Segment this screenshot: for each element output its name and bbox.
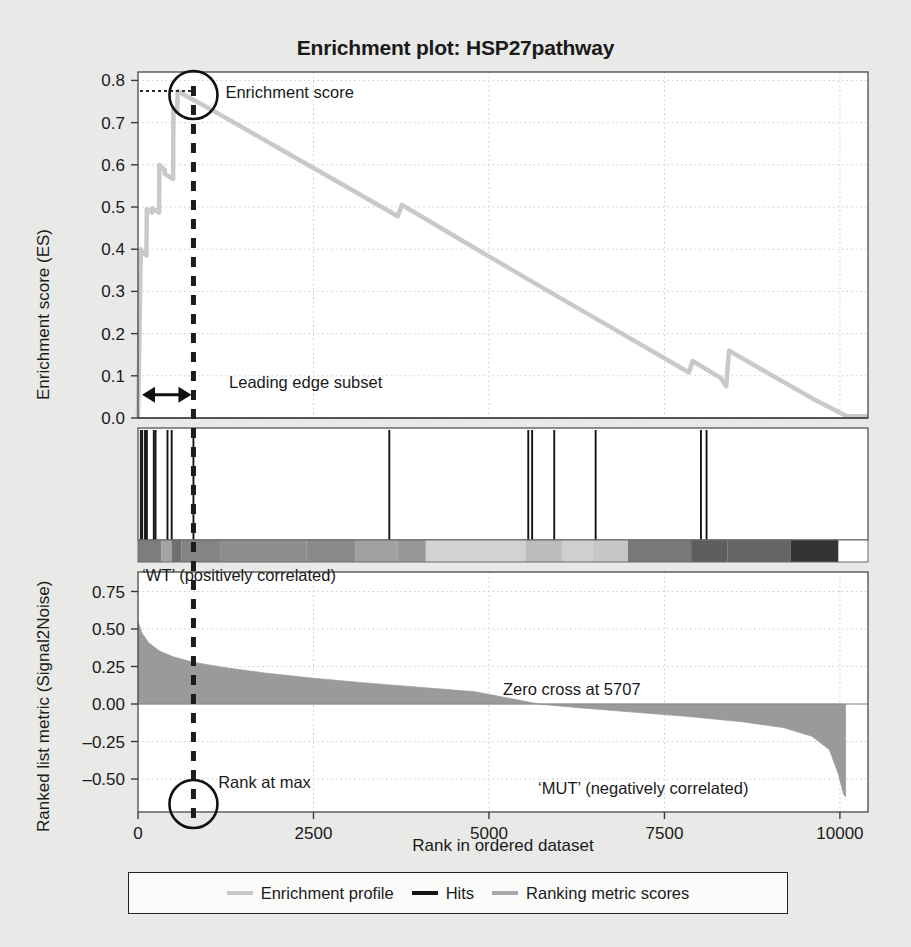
annotation-zero-cross-label: Zero cross at 5707 (503, 680, 641, 698)
annotation-wt-label: ‘WT’ (positively correlated) (142, 566, 336, 584)
y-tick-label-enrichment: 0.2 (101, 325, 125, 344)
y-tick-label-ranked-metric: 0.50 (92, 620, 125, 639)
hits-panel-bg (138, 428, 868, 540)
legend-label-ranking-metric: Ranking metric scores (526, 884, 689, 903)
y-axis-label-enrichment-score: Enrichment score (ES) (34, 229, 54, 400)
chart-legend: Enrichment profile Hits Ranking metric s… (128, 872, 788, 914)
heatmap-band (161, 540, 172, 562)
heatmap-band (172, 540, 182, 562)
heatmap-band (593, 540, 628, 562)
y-tick-label-ranked-metric: 0.00 (92, 695, 125, 714)
y-tick-label-enrichment: 0.0 (101, 409, 125, 428)
heatmap-band (563, 540, 593, 562)
y-tick-label-ranked-metric: 0.25 (92, 658, 125, 677)
y-axis-label-ranked-list-metric: Ranked list metric (Signal2Noise) (34, 581, 54, 832)
heatmap-band (356, 540, 398, 562)
heatmap-band (728, 540, 791, 562)
y-tick-label-enrichment: 0.8 (101, 71, 125, 90)
y-tick-label-ranked-metric: –0.50 (82, 770, 125, 789)
heatmap-band (691, 540, 728, 562)
y-tick-label-enrichment: 0.3 (101, 282, 125, 301)
annotation-rank-at-max-label: Rank at max (218, 773, 311, 791)
y-tick-label-enrichment: 0.4 (101, 240, 125, 259)
figure-root: Enrichment plot: HSP27pathway Enrichment… (0, 0, 911, 947)
y-tick-label-ranked-metric: 0.75 (92, 583, 125, 602)
y-tick-label-enrichment: 0.1 (101, 367, 125, 386)
y-tick-label-enrichment: 0.6 (101, 156, 125, 175)
legend-swatch-hits (412, 891, 438, 895)
legend-swatch-ranking-metric (492, 891, 518, 895)
heatmap-band (525, 540, 562, 562)
heatmap-band (306, 540, 355, 562)
heatmap-band (426, 540, 526, 562)
annotation-enrichment-score: Enrichment score (225, 83, 353, 101)
heatmap-band (221, 540, 307, 562)
chart-canvas: 0.00.10.20.30.40.50.60.70.80.750.500.250… (0, 0, 911, 947)
heatmap-band (138, 540, 161, 562)
legend-label-hits: Hits (446, 884, 474, 903)
heatmap-band (791, 540, 839, 562)
legend-swatch-enrichment-profile (227, 891, 253, 895)
y-tick-label-enrichment: 0.7 (101, 114, 125, 133)
enrichment-figure: Enrichment plot: HSP27pathway Enrichment… (0, 0, 911, 947)
legend-label-enrichment-profile: Enrichment profile (261, 884, 394, 903)
legend-item-enrichment-profile: Enrichment profile (227, 884, 394, 903)
heatmap-band (398, 540, 426, 562)
page-title: Enrichment plot: HSP27pathway (0, 36, 911, 60)
annotation-leading-edge: Leading edge subset (229, 373, 383, 391)
x-axis-label: Rank in ordered dataset (138, 836, 868, 856)
y-tick-label-ranked-metric: –0.25 (82, 733, 125, 752)
legend-item-ranking-metric: Ranking metric scores (492, 884, 689, 903)
heatmap-band (182, 540, 221, 562)
heatmap-band (839, 540, 868, 562)
annotation-mut-label: ‘MUT’ (negatively correlated) (538, 779, 748, 797)
heatmap-band (628, 540, 691, 562)
y-tick-label-enrichment: 0.5 (101, 198, 125, 217)
legend-item-hits: Hits (412, 884, 474, 903)
